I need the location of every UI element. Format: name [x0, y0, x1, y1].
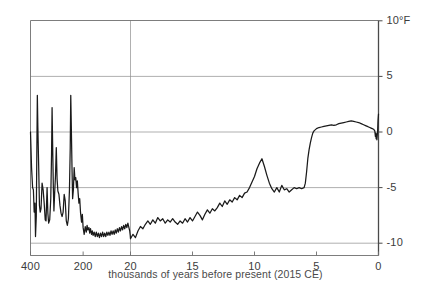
- x-axis-title: thousands of years before present (2015 …: [0, 268, 431, 280]
- y-tick-label-neg5: -5: [387, 181, 397, 193]
- y-axis-unit-label: °F: [399, 14, 410, 26]
- temperature-line-series: [31, 95, 379, 238]
- temperature-reconstruction-chart: 1050-5-10 40020020151050 °F thousands of…: [0, 0, 431, 293]
- y-tick-label-neg10: -10: [387, 236, 404, 248]
- y-tick-label-0: 0: [387, 125, 393, 137]
- y-tick-label-10: 10: [387, 14, 400, 26]
- chart-plot-area: [0, 0, 431, 293]
- y-tick-label-5: 5: [387, 69, 393, 81]
